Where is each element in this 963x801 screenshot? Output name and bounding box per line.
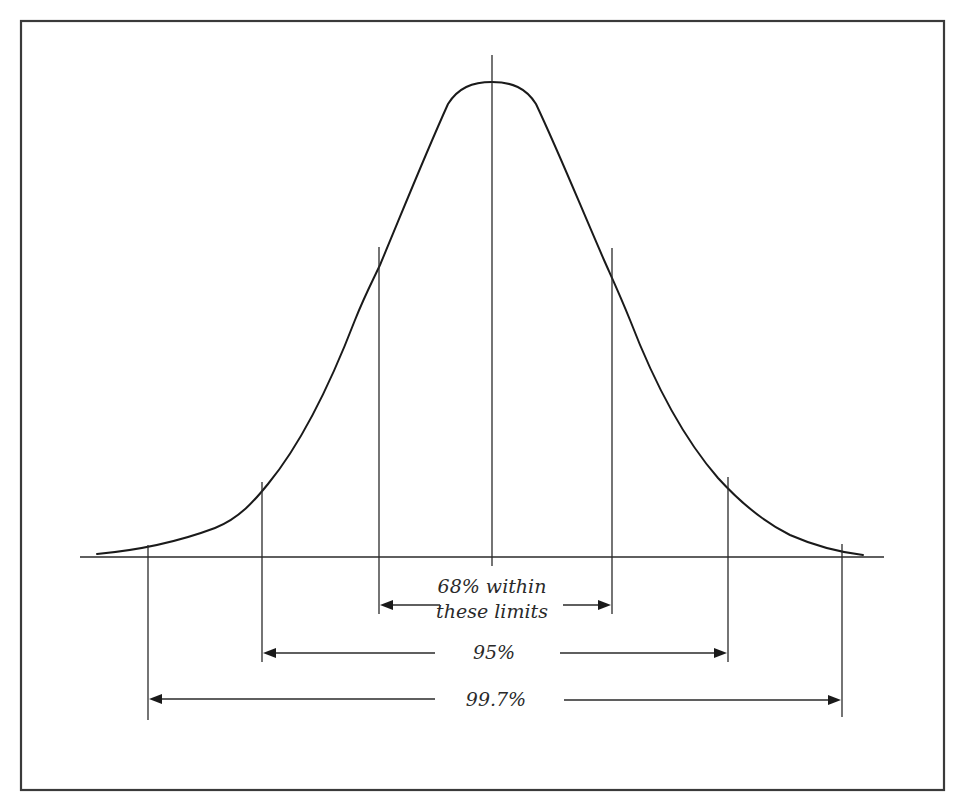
normal-distribution-figure: 68% within these limits 95% 99.7%	[0, 0, 963, 801]
two-sigma-dimension: 95%	[263, 641, 727, 663]
one-sigma-dimension: 68% within these limits	[380, 575, 611, 622]
three-sigma-label: 99.7%	[466, 688, 526, 710]
left-arrowhead-icon	[263, 648, 276, 658]
right-arrowhead-icon	[828, 695, 841, 705]
one-sigma-label-line1: 68% within	[438, 575, 547, 597]
figure-frame	[21, 21, 944, 790]
left-arrowhead-icon	[149, 694, 162, 704]
bell-curve	[97, 82, 863, 555]
two-sigma-label: 95%	[473, 641, 515, 663]
three-sigma-dimension: 99.7%	[149, 688, 841, 710]
bell-curve-diagram: 68% within these limits 95% 99.7%	[0, 0, 963, 801]
one-sigma-label-line2: these limits	[436, 600, 548, 622]
right-arrowhead-icon	[714, 648, 727, 658]
left-arrowhead-icon	[380, 600, 393, 610]
right-arrowhead-icon	[598, 600, 611, 610]
